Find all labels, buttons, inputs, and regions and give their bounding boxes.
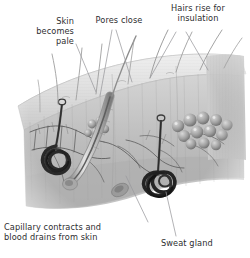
label-hairs-rise-for-insulation: Hairs rise for insulation bbox=[148, 3, 248, 23]
diagram-figure: Skin becomes pale Pores close Hairs rise… bbox=[0, 0, 250, 258]
label-skin-becomes-pale: Skin becomes pale bbox=[2, 16, 74, 47]
label-pores-close: Pores close bbox=[86, 15, 152, 25]
label-sweat-gland: Sweat gland bbox=[161, 238, 245, 248]
label-capillary-contracts: Capillary contracts and blood drains fro… bbox=[4, 222, 150, 242]
